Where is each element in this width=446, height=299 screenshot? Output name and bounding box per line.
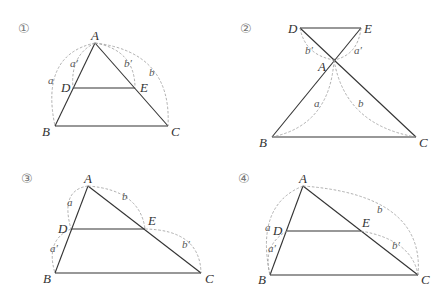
- point-e-label: E: [363, 21, 372, 36]
- segment-b-label: b: [122, 190, 128, 202]
- segment-a-prime-label: a′: [70, 57, 79, 69]
- figure-3: ③ A B C D E a a′ b b′: [21, 171, 214, 286]
- side-ac: [95, 43, 168, 126]
- point-c-label: C: [171, 124, 180, 139]
- point-b-label: B: [259, 135, 267, 150]
- figure-number: ③: [21, 171, 33, 186]
- line-eb: [272, 28, 361, 137]
- segment-a-prime-label: a′: [50, 242, 59, 254]
- figure-number: ②: [240, 21, 252, 36]
- point-a-label: A: [83, 171, 92, 186]
- point-a-label: A: [90, 28, 99, 43]
- segment-b-prime-label: b′: [182, 238, 191, 250]
- point-b-label: B: [43, 271, 51, 286]
- point-b-label: B: [258, 272, 266, 287]
- segment-a-label: a: [67, 196, 73, 208]
- point-d-label: D: [287, 21, 298, 36]
- point-e-label: E: [139, 80, 148, 95]
- segment-a-label: a: [265, 221, 271, 233]
- figure-number: ①: [18, 21, 30, 36]
- segment-b-label: b: [358, 97, 364, 109]
- point-b-label: B: [42, 124, 50, 139]
- segment-b-prime-label: b′: [124, 57, 133, 69]
- point-c-label: C: [421, 272, 430, 287]
- figure-number: ④: [238, 171, 250, 186]
- figure-4: ④ A B C D E a a′ b b′: [238, 171, 430, 287]
- point-e-label: E: [361, 215, 370, 230]
- point-a-label: A: [298, 171, 307, 186]
- similar-triangles-diagram: ① A B C D E a a′ b′ b ② D E: [0, 0, 446, 299]
- point-c-label: C: [419, 135, 428, 150]
- point-e-label: E: [147, 213, 156, 228]
- segment-a-prime-label: a′: [268, 242, 277, 254]
- point-d-label: D: [272, 223, 283, 238]
- segment-b-label: b: [377, 203, 383, 215]
- figure-1: ① A B C D E a a′ b′ b: [18, 21, 180, 139]
- figure-2: ② D E A B C b′ a′ a b: [240, 21, 428, 150]
- segment-b-label: b: [149, 66, 155, 78]
- segment-b-prime-label: b′: [305, 44, 314, 56]
- segment-a-label: a: [314, 97, 320, 109]
- point-d-label: D: [60, 80, 71, 95]
- point-d-label: D: [57, 221, 68, 236]
- point-a-label: A: [317, 59, 326, 74]
- segment-a-prime-label: a′: [354, 44, 363, 56]
- segment-b-prime-label: b′: [392, 239, 401, 251]
- segment-a-label: a: [48, 74, 54, 86]
- point-c-label: C: [205, 271, 214, 286]
